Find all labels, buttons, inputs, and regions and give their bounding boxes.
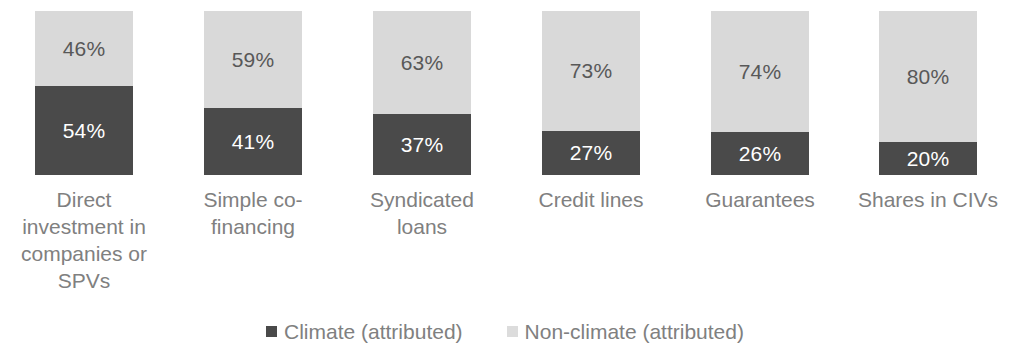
legend-item-climate[interactable]: Climate (attributed) xyxy=(266,321,463,342)
bar-value-label-non-climate-5: 80% xyxy=(907,66,949,87)
bar-stack-3: 73% 27% xyxy=(542,11,640,175)
category-label-3: Credit lines xyxy=(516,186,666,213)
chart-plot-area: 46% 54% 59% 41% 63% xyxy=(0,0,1010,190)
bar-group-1[interactable]: 59% 41% xyxy=(204,11,302,175)
bar-group-4[interactable]: 74% 26% xyxy=(711,11,809,175)
category-label-0: Direct investment in companies or SPVs xyxy=(9,186,159,294)
bar-stack-5: 80% 20% xyxy=(879,11,977,175)
legend-swatch-icon-climate xyxy=(266,326,277,337)
bar-segment-non-climate-3[interactable]: 73% xyxy=(542,11,640,131)
chart-legend: Climate (attributed) Non-climate (attrib… xyxy=(0,316,1010,346)
bar-value-label-non-climate-1: 59% xyxy=(232,49,274,70)
bar-value-label-non-climate-3: 73% xyxy=(570,60,612,81)
category-label-2: Syndicated loans xyxy=(347,186,497,240)
bar-segment-climate-0[interactable]: 54% xyxy=(35,86,133,175)
bar-value-label-non-climate-2: 63% xyxy=(401,52,443,73)
bar-group-0[interactable]: 46% 54% xyxy=(35,11,133,175)
bar-value-label-climate-2: 37% xyxy=(401,134,443,155)
category-axis-labels: Direct investment in companies or SPVs S… xyxy=(0,186,1010,296)
bar-segment-non-climate-0[interactable]: 46% xyxy=(35,11,133,86)
bar-value-label-non-climate-4: 74% xyxy=(739,61,781,82)
bar-value-label-climate-0: 54% xyxy=(63,120,105,141)
category-label-4: Guarantees xyxy=(685,186,835,213)
bar-value-label-climate-4: 26% xyxy=(739,143,781,164)
legend-label-non-climate: Non-climate (attributed) xyxy=(525,321,744,342)
bar-segment-climate-5[interactable]: 20% xyxy=(879,142,977,175)
legend-label-climate: Climate (attributed) xyxy=(284,321,463,342)
bar-group-5[interactable]: 80% 20% xyxy=(879,11,977,175)
legend-item-non-climate[interactable]: Non-climate (attributed) xyxy=(507,321,744,342)
bar-group-2[interactable]: 63% 37% xyxy=(373,11,471,175)
legend-swatch-icon-non-climate xyxy=(507,326,518,337)
bar-value-label-climate-1: 41% xyxy=(232,131,274,152)
stacked-bar-chart: 46% 54% 59% 41% 63% xyxy=(0,0,1010,347)
bar-segment-non-climate-5[interactable]: 80% xyxy=(879,11,977,142)
bar-stack-2: 63% 37% xyxy=(373,11,471,175)
bar-segment-climate-3[interactable]: 27% xyxy=(542,131,640,175)
bar-stack-1: 59% 41% xyxy=(204,11,302,175)
bar-stack-0: 46% 54% xyxy=(35,11,133,175)
bar-group-3[interactable]: 73% 27% xyxy=(542,11,640,175)
bar-value-label-climate-5: 20% xyxy=(907,148,949,169)
bar-segment-climate-2[interactable]: 37% xyxy=(373,114,471,175)
bar-segment-climate-1[interactable]: 41% xyxy=(204,108,302,175)
bar-segment-climate-4[interactable]: 26% xyxy=(711,132,809,175)
bar-stack-4: 74% 26% xyxy=(711,11,809,175)
bar-value-label-non-climate-0: 46% xyxy=(63,38,105,59)
category-label-1: Simple co- financing xyxy=(178,186,328,240)
bar-value-label-climate-3: 27% xyxy=(570,142,612,163)
category-label-5: Shares in CIVs xyxy=(853,186,1003,213)
bar-segment-non-climate-2[interactable]: 63% xyxy=(373,11,471,114)
bar-segment-non-climate-4[interactable]: 74% xyxy=(711,11,809,132)
bar-segment-non-climate-1[interactable]: 59% xyxy=(204,11,302,108)
